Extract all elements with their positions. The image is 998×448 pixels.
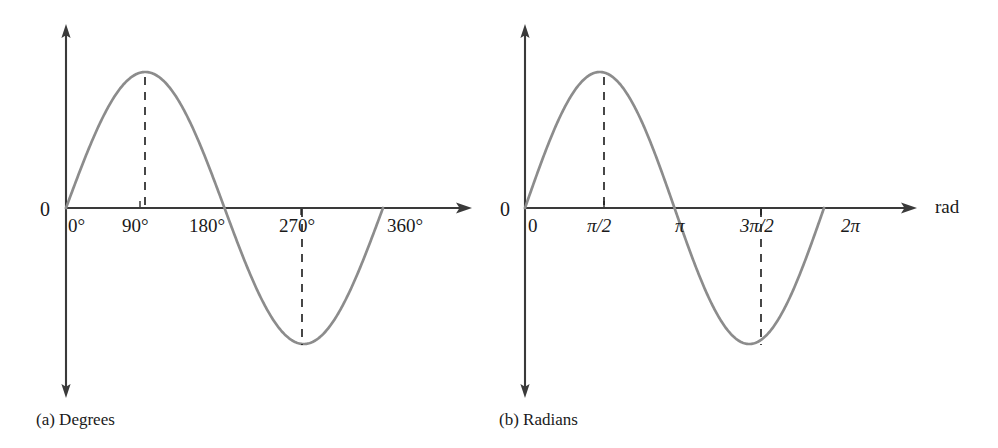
caption-radians: (b) Radians <box>499 411 578 428</box>
sine-wave-figure: 0 0° 90° 180° 270° 360° (a) Degrees <box>0 0 998 448</box>
x-axis-unit-label: rad <box>935 197 959 216</box>
tick-label-2pi: 2π <box>841 216 860 235</box>
tick-label-180deg: 180° <box>189 216 225 235</box>
panel-radians: 0 0 π/2 π 3π/2 2π rad (b) Radians <box>499 0 998 448</box>
tick-label-90deg: 90° <box>122 216 149 235</box>
origin-label: 0 <box>500 199 510 219</box>
tick-label-pi: π <box>675 216 685 235</box>
tick-label-0: 0 <box>528 216 538 235</box>
tick-label-0deg: 0° <box>68 216 85 235</box>
tick-label-360deg: 360° <box>387 216 423 235</box>
panel-degrees: 0 0° 90° 180° 270° 360° (a) Degrees <box>0 0 499 448</box>
tick-label-3pi-over-2: 3π/2 <box>740 216 774 235</box>
tick-label-pi-over-2: π/2 <box>587 216 611 235</box>
tick-label-270deg: 270° <box>279 216 315 235</box>
caption-degrees: (a) Degrees <box>36 411 115 428</box>
origin-label: 0 <box>40 199 50 219</box>
